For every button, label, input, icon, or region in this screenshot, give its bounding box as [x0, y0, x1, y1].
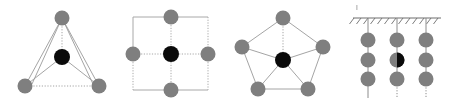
panel-suspended — [345, 0, 449, 106]
panel-triangle — [8, 0, 116, 106]
node-center-top — [390, 33, 405, 48]
pentagon-network-svg — [230, 0, 338, 106]
hatch-tick — [420, 18, 425, 24]
hatch-tick — [385, 18, 390, 24]
stray-mark-group — [356, 5, 358, 10]
hatch-tick — [378, 18, 383, 24]
hatch-tick — [399, 18, 404, 24]
half-node-black-right — [397, 53, 404, 68]
panel-pentagon — [230, 0, 338, 106]
square-lattice-svg — [117, 0, 225, 106]
node-bottom — [164, 83, 179, 98]
node-right — [201, 47, 216, 62]
node-left — [126, 47, 141, 62]
panel-square — [117, 0, 225, 106]
node-top — [276, 11, 291, 26]
chain-nodes — [361, 33, 434, 87]
node-left-middle — [361, 53, 376, 68]
node-center-black — [54, 49, 70, 65]
square-nodes — [126, 10, 216, 98]
node-lower-right — [301, 82, 316, 97]
figure-root — [0, 0, 449, 106]
triangle-network-svg — [8, 0, 116, 106]
stray-mark-icon — [356, 5, 358, 10]
hatch-tick — [371, 18, 376, 24]
node-bottom-right — [92, 79, 107, 94]
hatch-tick — [357, 18, 362, 24]
node-left-bottom — [361, 72, 376, 87]
hatch-tick — [413, 18, 418, 24]
suspended-chains-svg — [345, 0, 449, 106]
edge-top-to-upper-left — [242, 18, 283, 47]
hatch-tick — [406, 18, 411, 24]
node-lower-left — [251, 82, 266, 97]
node-top — [164, 10, 179, 25]
hatch-tick — [392, 18, 397, 24]
hatch-ticks — [350, 18, 439, 24]
node-right-top — [419, 33, 434, 48]
node-upper-left — [235, 40, 250, 55]
hatch-tick — [350, 18, 355, 24]
pentagon-nodes — [235, 11, 331, 97]
node-center-middle-half-filled — [390, 53, 405, 68]
node-right-middle — [419, 53, 434, 68]
node-center-black — [163, 46, 179, 62]
node-left-top — [361, 33, 376, 48]
node-apex — [55, 11, 70, 26]
node-bottom-left — [18, 79, 33, 94]
node-right-bottom — [419, 72, 434, 87]
hatch-tick — [427, 18, 432, 24]
fixed-support-hatching — [350, 18, 442, 24]
node-center-bottom — [390, 72, 405, 87]
node-center-black — [275, 52, 291, 68]
hatch-tick — [434, 18, 439, 24]
node-upper-right — [316, 40, 331, 55]
hatch-tick — [364, 18, 369, 24]
